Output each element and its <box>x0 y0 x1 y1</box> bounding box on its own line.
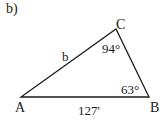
vertex-label-b: B <box>150 101 159 115</box>
triangle-diagram: b) C A B 94° 63° b 127' <box>0 0 167 134</box>
angle-c-label: 94° <box>102 42 120 56</box>
side-ac-label: b <box>62 50 69 64</box>
side-ab-label: 127' <box>78 104 100 118</box>
vertex-label-a: A <box>15 101 25 115</box>
angle-b-label: 63° <box>121 83 139 97</box>
vertex-label-c: C <box>116 18 125 32</box>
